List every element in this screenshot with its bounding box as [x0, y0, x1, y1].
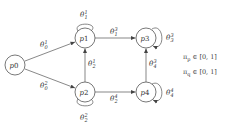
svg-text:p2: p2: [80, 89, 89, 97]
svg-text:1: 1: [115, 31, 118, 37]
label-theta-4-4: θ 4 4: [166, 87, 174, 99]
svg-text:2: 2: [84, 117, 88, 123]
label-theta-1-3: θ 3 1: [110, 26, 118, 38]
node-p2: p2: [75, 82, 95, 102]
svg-text:πp ∈ [0, 1]: πp ∈ [0, 1]: [183, 53, 217, 63]
label-theta-2-1: θ 1 2: [88, 58, 96, 70]
svg-text:4: 4: [153, 63, 157, 69]
svg-text:p4: p4: [141, 89, 150, 97]
edge-p0-p2: [25, 69, 75, 88]
param-pi-p: πp ∈ [0, 1]: [183, 53, 217, 63]
node-p1: p1: [75, 28, 95, 48]
svg-text:2: 2: [92, 63, 96, 69]
svg-text:4: 4: [170, 92, 174, 98]
param-pi-q: πq ∈ [0, 1]: [183, 68, 217, 78]
markov-chain-diagram: p0 p1 p2 p3 p4 θ 1 0 θ 2 0 θ 1 1 θ 2 2 θ…: [0, 0, 230, 131]
svg-text:0: 0: [45, 85, 49, 91]
node-p4: p4: [136, 82, 156, 102]
svg-text:πq ∈ [0, 1]: πq ∈ [0, 1]: [183, 68, 217, 78]
label-theta-0-1: θ 1 0: [40, 39, 49, 51]
label-theta-1-1: θ 1 1: [80, 9, 88, 21]
node-p3: p3: [136, 28, 156, 48]
node-p0: p0: [5, 55, 25, 75]
edge-p0-p1: [25, 42, 75, 61]
label-theta-2-4: θ 4 2: [110, 93, 118, 105]
svg-text:p3: p3: [141, 35, 150, 43]
svg-text:p0: p0: [10, 62, 19, 70]
svg-text:3: 3: [171, 37, 174, 43]
svg-text:p1: p1: [80, 35, 89, 43]
svg-text:1: 1: [85, 14, 88, 20]
label-theta-2-2: θ 2 2: [80, 112, 88, 124]
label-theta-3-3: θ 3 3: [166, 32, 174, 44]
label-theta-4-3: θ 3 4: [149, 58, 157, 70]
svg-text:0: 0: [45, 44, 49, 50]
label-theta-0-2: θ 2 0: [40, 80, 49, 92]
svg-text:2: 2: [114, 98, 118, 104]
